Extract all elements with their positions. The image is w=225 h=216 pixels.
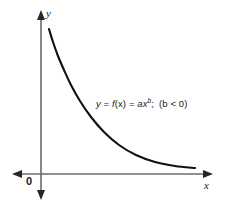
y-axis-arrow-down	[37, 190, 45, 200]
equation-condition: (b < 0)	[159, 98, 187, 109]
x-axis-arrow-left	[12, 170, 22, 178]
y-axis-label: y	[46, 8, 51, 19]
equation-semicolon: ;	[151, 98, 154, 109]
power-function-figure: y x 0 y = f(x) = axb;(b < 0)	[0, 0, 225, 216]
x-axis-label: x	[204, 180, 209, 191]
equation-equals-2: =	[126, 98, 137, 109]
equation-equals-1: =	[101, 98, 112, 109]
origin-label: 0	[26, 176, 32, 187]
x-axis-arrow-right	[203, 170, 213, 178]
equation-annotation: y = f(x) = axb;(b < 0)	[96, 98, 187, 109]
y-axis-arrow-up	[37, 10, 45, 20]
equation-of-x: (x)	[115, 98, 126, 109]
